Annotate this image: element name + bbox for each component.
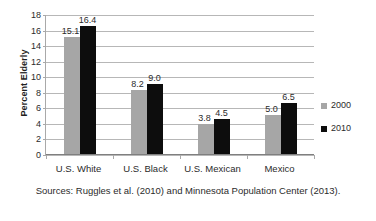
bar-2010-u-s-mexican[interactable]: 4.5 (214, 119, 230, 154)
y-axis-tickmark (43, 62, 46, 63)
y-axis-tickmark (43, 108, 46, 109)
x-axis-label-u-s-white: U.S. White (45, 163, 113, 175)
chart-legend: 20002010 (321, 99, 373, 145)
y-axis-tick-labels: 181614121086420 (24, 15, 41, 155)
bar-2000-u-s-black[interactable]: 8.2 (131, 90, 147, 154)
bar-value-label: 4.5 (210, 108, 234, 118)
y-axis-tickmark (43, 93, 46, 94)
bar-group: 8.29.0 (131, 14, 163, 154)
source-caption: Sources: Ruggles et al. (2010) and Minne… (20, 184, 356, 197)
y-axis-tick-label: 4 (24, 120, 41, 129)
x-axis-tickmark (113, 155, 114, 159)
y-axis-tick-label: 12 (24, 58, 41, 67)
x-axis-label-u-s-black: U.S. Black (112, 163, 180, 175)
legend-swatch-2010 (321, 126, 327, 132)
legend-entry-2010[interactable]: 2010 (321, 122, 373, 135)
bar-chart-figure: Percent Elderly 181614121086420 15.116.4… (0, 0, 376, 221)
y-axis-tick-label: 8 (24, 89, 41, 98)
y-axis-tick-label: 10 (24, 73, 41, 82)
bar-value-label: 9.0 (143, 73, 167, 83)
x-axis-label-mexico: Mexico (246, 163, 314, 175)
y-axis-tickmark (43, 46, 46, 47)
bar-2000-mexico[interactable]: 5.0 (265, 115, 281, 154)
y-axis-tick-label: 14 (24, 42, 41, 51)
x-axis-tickmark (247, 155, 248, 159)
legend-entry-2000[interactable]: 2000 (321, 99, 373, 112)
bar-2010-u-s-black[interactable]: 9.0 (147, 84, 163, 154)
x-axis-tickmark (46, 155, 47, 159)
y-axis-tick-label: 18 (24, 11, 41, 20)
y-axis-tick-label: 6 (24, 104, 41, 113)
x-axis-label-u-s-mexican: U.S. Mexican (179, 163, 247, 175)
bar-group: 5.06.5 (265, 14, 297, 154)
bar-value-label: 6.5 (277, 92, 301, 102)
y-axis-tickmark (43, 77, 46, 78)
x-axis-category-labels: U.S. WhiteU.S. BlackU.S. MexicanMexico (45, 163, 313, 177)
bar-group: 3.84.5 (198, 14, 230, 154)
y-axis-tickmark (43, 31, 46, 32)
x-axis-tickmark (180, 155, 181, 159)
y-axis-tick-label: 2 (24, 135, 41, 144)
x-axis-tickmark (314, 155, 315, 159)
bar-value-label: 16.4 (76, 15, 100, 25)
bar-2000-u-s-mexican[interactable]: 3.8 (198, 124, 214, 154)
y-axis-tickmark (43, 124, 46, 125)
bar-group: 15.116.4 (64, 14, 96, 154)
bar-2000-u-s-white[interactable]: 15.1 (64, 37, 80, 154)
y-axis-tickmark (43, 139, 46, 140)
plot-area: 15.116.48.29.03.84.55.06.5 (45, 15, 314, 155)
legend-label-2000: 2000 (331, 101, 351, 110)
legend-label-2010: 2010 (331, 124, 351, 133)
bar-2010-u-s-white[interactable]: 16.4 (80, 26, 96, 154)
y-axis-tick-label: 0 (24, 151, 41, 160)
legend-swatch-2000 (321, 103, 327, 109)
bar-2010-mexico[interactable]: 6.5 (281, 103, 297, 154)
y-axis-tick-label: 16 (24, 27, 41, 36)
y-axis-tickmark (43, 15, 46, 16)
